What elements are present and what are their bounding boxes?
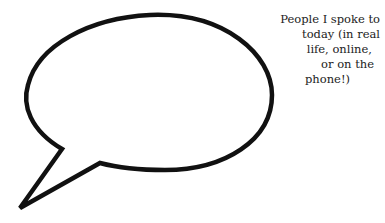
caption-line-4: or on the [240,57,380,72]
speech-bubble-outline [20,15,272,208]
caption-line-5: phone!) [240,72,380,87]
caption-text: People I spoke to today (in real life, o… [240,12,380,87]
caption-line-2: today (in real [240,27,380,42]
caption-line-3: life, online, [240,42,380,57]
caption-line-1: People I spoke to [240,12,380,27]
